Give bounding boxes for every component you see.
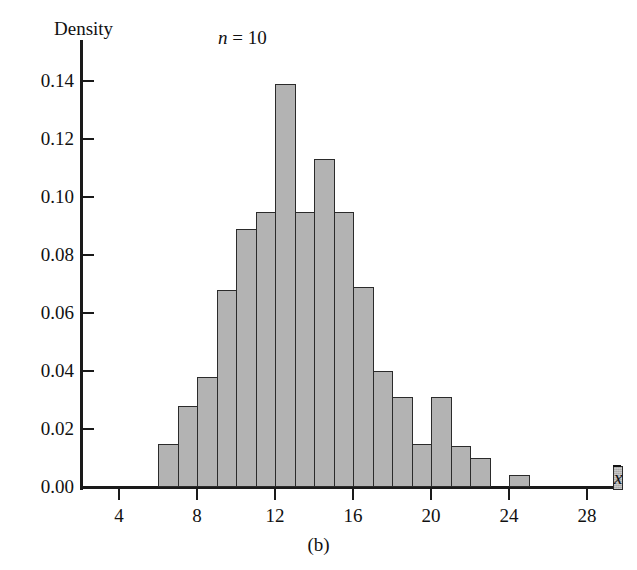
histogram-bar	[295, 212, 316, 488]
x-axis-title: x	[613, 466, 623, 490]
histogram-bar	[392, 397, 413, 487]
histogram-bars	[0, 0, 637, 570]
histogram-bar	[256, 212, 277, 488]
x-bar-symbol: x	[613, 466, 623, 490]
histogram-bar	[412, 444, 433, 488]
histogram-bar	[431, 397, 452, 487]
histogram-bar	[217, 290, 238, 487]
histogram-bar	[334, 212, 355, 488]
histogram-figure: Density n = 10 0.000.020.040.060.080.100…	[0, 0, 637, 570]
histogram-bar	[178, 406, 199, 487]
figure-caption: (b)	[0, 534, 637, 556]
histogram-bar	[470, 458, 491, 487]
histogram-bar	[451, 446, 472, 487]
histogram-bar	[509, 475, 530, 487]
histogram-bar	[373, 371, 394, 487]
histogram-bar	[314, 159, 335, 487]
histogram-bar	[158, 444, 179, 488]
histogram-bar	[236, 229, 257, 487]
histogram-bar	[275, 84, 296, 487]
histogram-bar	[197, 377, 218, 487]
histogram-bar	[353, 287, 374, 487]
